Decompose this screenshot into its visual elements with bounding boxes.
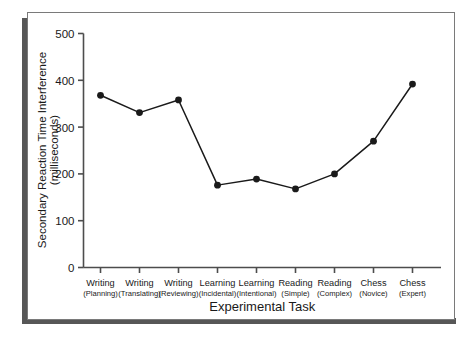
x-axis-tick-sublabel: (Planning) <box>83 289 118 298</box>
x-axis-tick-sublabel: (Simple) <box>281 289 310 298</box>
x-axis-tick-label: Writing <box>125 278 153 288</box>
data-point <box>97 92 104 99</box>
x-axis-tick-sublabel: (Reviewing) <box>158 289 199 298</box>
y-axis-tick-label: 500 <box>55 28 74 40</box>
y-axis-tick-label: 400 <box>55 75 74 87</box>
x-axis-tick-sublabel: (Incidental) <box>199 289 237 298</box>
x-axis-tick-label: Learning <box>239 278 275 288</box>
data-point <box>331 171 338 178</box>
data-point <box>136 109 143 116</box>
data-point <box>409 81 416 88</box>
x-axis-tick-label: Reading <box>317 278 351 288</box>
x-axis-tick-sublabel: (Novice) <box>359 289 388 298</box>
y-axis-title: Secondary Reaction Time Interference <box>36 52 48 248</box>
y-axis-title-units: (milliseconds) <box>48 115 60 185</box>
x-axis-tick-label: Writing <box>86 278 114 288</box>
line-chart: 0100200300400500Writing(Planning)Writing… <box>0 0 473 343</box>
figure-container: 0100200300400500Writing(Planning)Writing… <box>0 0 473 343</box>
x-axis-tick-sublabel: (Complex) <box>317 289 352 298</box>
data-point <box>214 182 221 189</box>
data-point <box>292 185 299 192</box>
x-axis-tick-label: Writing <box>164 278 192 288</box>
y-axis-tick-label: 0 <box>68 262 74 274</box>
y-axis-tick-label: 100 <box>55 215 74 227</box>
data-point <box>370 138 377 145</box>
data-series-line <box>101 84 413 189</box>
data-point <box>253 176 260 183</box>
x-axis-tick-label: Chess <box>360 278 386 288</box>
x-axis-tick-label: Learning <box>200 278 236 288</box>
data-point <box>175 97 182 104</box>
x-axis-title: Experimental Task <box>209 299 315 314</box>
x-axis-tick-sublabel: (Translating) <box>118 289 161 298</box>
x-axis-tick-sublabel: (Intentional) <box>236 289 277 298</box>
x-axis-tick-label: Reading <box>278 278 312 288</box>
x-axis-tick-label: Chess <box>399 278 425 288</box>
x-axis-tick-sublabel: (Expert) <box>399 289 426 298</box>
